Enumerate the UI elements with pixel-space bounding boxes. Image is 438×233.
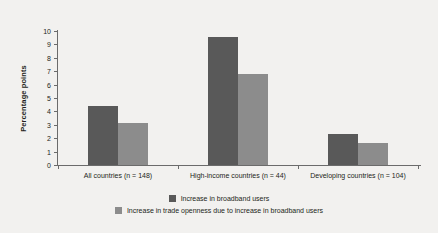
plot-area (58, 31, 418, 165)
x-axis-tick-mark (298, 165, 299, 169)
y-axis-tick-mark (54, 165, 57, 166)
legend-swatch-icon (115, 207, 122, 214)
x-axis-tick-mark (178, 165, 179, 169)
y-axis-tick-mark (54, 44, 57, 45)
y-axis-tick-mark (54, 58, 57, 59)
x-axis-tick-mark (58, 165, 59, 169)
legend-label: Increase in broadband users (181, 195, 270, 202)
bar (208, 37, 238, 165)
x-axis-category-label: High-income countries (n = 44) (190, 172, 286, 180)
chart-figure: Percentage points 012345678910 All count… (0, 0, 438, 233)
bar (88, 106, 118, 165)
bar (238, 74, 268, 165)
y-axis-tick-label: 7 (47, 68, 51, 75)
y-axis-tick-label: 6 (47, 81, 51, 88)
x-axis-category-label: Developing countries (n = 104) (310, 172, 406, 180)
y-axis-tick-mark (54, 31, 57, 32)
y-axis-tick-mark (54, 85, 57, 86)
x-axis-category-label: All countries (n = 148) (84, 172, 152, 180)
x-axis-tick-mark (418, 165, 419, 169)
legend-label: Increase in trade openness due to increa… (127, 207, 323, 214)
bar (118, 123, 148, 165)
y-axis-title-label: Percentage points (19, 65, 28, 132)
y-axis-tick-label: 5 (47, 95, 51, 102)
y-axis-tick-mark (54, 125, 57, 126)
bar (328, 134, 358, 165)
y-axis-tick-mark (54, 152, 57, 153)
legend-row: Increase in broadband users (0, 192, 438, 204)
legend-row: Increase in trade openness due to increa… (0, 204, 438, 216)
y-axis-tick-label: 3 (47, 121, 51, 128)
y-axis-tick-label: 10 (43, 28, 51, 35)
y-axis-tick-mark (54, 98, 57, 99)
y-axis-tick-label: 0 (47, 162, 51, 169)
y-axis-tick-mark (54, 138, 57, 139)
bar (358, 143, 388, 165)
y-axis-tick-mark (54, 111, 57, 112)
y-axis-tick-label: 4 (47, 108, 51, 115)
y-axis-tick-label: 8 (47, 54, 51, 61)
y-axis-tick-label: 9 (47, 41, 51, 48)
x-axis-line (57, 165, 421, 166)
chart-legend: Increase in broadband users Increase in … (0, 192, 438, 216)
legend-swatch-icon (169, 195, 176, 202)
y-axis-tick-label: 2 (47, 135, 51, 142)
y-axis-tick-mark (54, 71, 57, 72)
y-axis-title: Percentage points (17, 50, 29, 146)
y-axis-tick-label: 1 (47, 148, 51, 155)
